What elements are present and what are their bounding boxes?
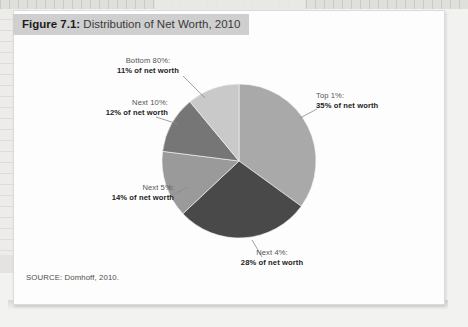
pie-label-bottom80-category: Bottom 80%: <box>96 56 200 66</box>
pie-label-next10: Next 10%: 12% of net worth <box>56 98 168 117</box>
pie-label-bottom80-value: 11% of net worth <box>96 66 200 76</box>
leader-line-bottom80 <box>183 76 205 98</box>
pie-label-next10-value: 12% of net worth <box>56 108 168 118</box>
pie-label-next4-value: 28% of net worth <box>214 258 330 268</box>
pie-label-top1-category: Top 1%: <box>316 91 432 101</box>
pie-label-next5: Next 5%: 14% of net worth <box>62 183 174 202</box>
pie-label-next10-category: Next 10%: <box>56 98 168 108</box>
source-note: SOURCE: Domhoff, 2010. <box>26 273 119 282</box>
pie-label-next4: Next 4%: 28% of net worth <box>214 248 330 267</box>
pie-label-next5-value: 14% of net worth <box>62 193 174 203</box>
pie-label-next5-category: Next 5%: <box>62 183 174 193</box>
pie-label-top1-value: 35% of net worth <box>316 101 432 111</box>
pie-label-top1: Top 1%: 35% of net worth <box>316 91 432 110</box>
leader-line-top1 <box>300 109 317 118</box>
pie-label-bottom80: Bottom 80%: 11% of net worth <box>96 56 200 75</box>
pie-label-next4-category: Next 4%: <box>214 248 330 258</box>
